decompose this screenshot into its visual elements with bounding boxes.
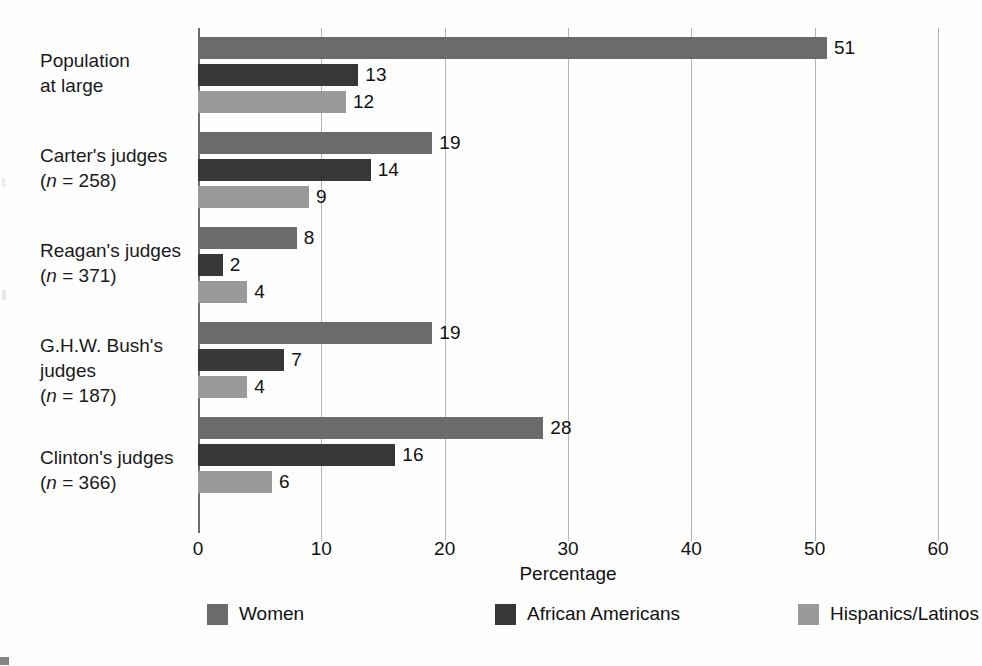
bar[interactable]: [198, 254, 223, 276]
bar-row: 7: [198, 349, 938, 371]
bar-group: 19149: [198, 132, 938, 213]
x-tick-label-10: 10: [311, 538, 332, 560]
legend-label: Hispanics/Latinos: [830, 603, 979, 625]
n-symbol: n: [46, 265, 57, 286]
bar-row: 4: [198, 376, 938, 398]
legend-item[interactable]: Women: [207, 601, 304, 627]
bar-row: 13: [198, 64, 938, 86]
bar[interactable]: [198, 132, 432, 154]
category-label: Clinton's judges(n = 366): [40, 445, 190, 495]
legend-item[interactable]: African Americans: [495, 601, 680, 627]
category-label-line: Carter's judges: [40, 143, 190, 168]
bar-value-label: 28: [543, 417, 571, 439]
x-tick-label-30: 30: [557, 538, 578, 560]
gridline-60: [938, 28, 939, 541]
bar-row: 16: [198, 444, 938, 466]
legend-item[interactable]: Hispanics/Latinos: [798, 601, 979, 627]
x-axis-title: Percentage: [198, 563, 938, 585]
bar-value-label: 8: [297, 227, 315, 249]
bar-value-label: 4: [247, 281, 265, 303]
bar-row: 19: [198, 132, 938, 154]
bar-value-label: 2: [223, 254, 241, 276]
x-tick-label-50: 50: [804, 538, 825, 560]
category-label: G.H.W. Bush'sjudges(n = 187): [40, 333, 190, 408]
bar-row: 51: [198, 37, 938, 59]
bar-row: 2: [198, 254, 938, 276]
bar-group: 28166: [198, 417, 938, 498]
category-label-line: Clinton's judges: [40, 445, 190, 470]
category-label-line: judges: [40, 358, 190, 383]
bar[interactable]: [198, 322, 432, 344]
bar[interactable]: [198, 37, 827, 59]
category-sample-size: (n = 187): [40, 383, 190, 408]
chart-legend: WomenAfrican AmericansHispanics/Latinos: [198, 601, 968, 627]
x-tick-label-60: 60: [927, 538, 948, 560]
category-label-line: at large: [40, 73, 190, 98]
bar-value-label: 16: [395, 444, 423, 466]
bar[interactable]: [198, 91, 346, 113]
category-label: Reagan's judges(n = 371): [40, 238, 190, 288]
bar-value-label: 9: [309, 186, 327, 208]
category-label-line: Reagan's judges: [40, 238, 190, 263]
category-sample-size: (n = 371): [40, 263, 190, 288]
scan-artifact: [2, 178, 5, 187]
x-tick-label-40: 40: [681, 538, 702, 560]
bar-value-label: 51: [827, 37, 855, 59]
bar-group: 511312: [198, 37, 938, 118]
bar[interactable]: [198, 159, 371, 181]
bar[interactable]: [198, 444, 395, 466]
category-sample-size: (n = 366): [40, 470, 190, 495]
plot-area: 51131219149824197428166: [198, 28, 938, 533]
bar[interactable]: [198, 186, 309, 208]
bar-group: 1974: [198, 322, 938, 403]
bar[interactable]: [198, 64, 358, 86]
bar-row: 12: [198, 91, 938, 113]
bar-value-label: 6: [272, 471, 290, 493]
bar-value-label: 7: [284, 349, 302, 371]
category-label: Carter's judges(n = 258): [40, 143, 190, 193]
bar-value-label: 4: [247, 376, 265, 398]
category-label-line: G.H.W. Bush's: [40, 333, 190, 358]
legend-label: African Americans: [527, 603, 680, 625]
legend-label: Women: [239, 603, 304, 625]
n-symbol: n: [46, 472, 57, 493]
bar-row: 4: [198, 281, 938, 303]
category-label-line: Population: [40, 48, 190, 73]
bar-row: 14: [198, 159, 938, 181]
bar-value-label: 13: [358, 64, 386, 86]
bar[interactable]: [198, 349, 284, 371]
bar-value-label: 12: [346, 91, 374, 113]
bar[interactable]: [198, 281, 247, 303]
scan-artifact: [0, 657, 9, 665]
bar-row: 9: [198, 186, 938, 208]
chart-figure: 51131219149824197428166 Populationat lar…: [0, 0, 982, 666]
category-label: Populationat large: [40, 48, 190, 98]
legend-swatch: [495, 604, 516, 625]
bar-group: 824: [198, 227, 938, 308]
bar-value-label: 19: [432, 132, 460, 154]
bar[interactable]: [198, 376, 247, 398]
bar-row: 6: [198, 471, 938, 493]
x-tick-label-20: 20: [434, 538, 455, 560]
legend-swatch: [207, 604, 228, 625]
bar[interactable]: [198, 227, 297, 249]
bar-row: 8: [198, 227, 938, 249]
scan-artifact: [2, 290, 6, 300]
bar-row: 19: [198, 322, 938, 344]
legend-swatch: [798, 604, 819, 625]
x-tick-label-0: 0: [193, 538, 204, 560]
category-sample-size: (n = 258): [40, 168, 190, 193]
bar-value-label: 19: [432, 322, 460, 344]
n-symbol: n: [46, 170, 57, 191]
n-symbol: n: [46, 385, 57, 406]
bar-value-label: 14: [371, 159, 399, 181]
bar-row: 28: [198, 417, 938, 439]
bar[interactable]: [198, 417, 543, 439]
bar[interactable]: [198, 471, 272, 493]
